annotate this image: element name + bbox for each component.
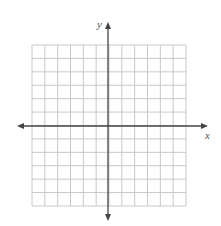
y-axis-bottom-arrow-icon <box>105 214 111 221</box>
y-axis-label: y <box>96 18 102 30</box>
coordinate-plane: y x <box>0 0 221 226</box>
y-axis-top-arrow-icon <box>105 22 111 29</box>
x-axis-left-arrow-icon <box>17 123 24 129</box>
axes <box>17 22 208 221</box>
x-axis-label: x <box>204 129 210 141</box>
